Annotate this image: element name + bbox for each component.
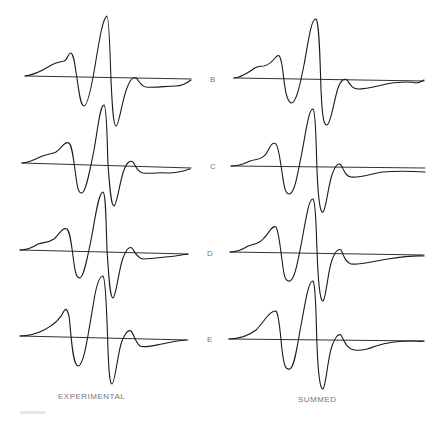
summed-trace-d (230, 199, 424, 301)
spectra-figure (0, 0, 442, 423)
experimental-trace-e (20, 276, 188, 384)
experimental-trace-b (25, 16, 191, 126)
row-label-c: C (210, 162, 216, 171)
experimental-trace-d (20, 192, 188, 298)
row-label-b: B (210, 75, 215, 84)
summed-trace-b (234, 19, 424, 125)
figure-caption-mark (20, 411, 46, 414)
summed-trace-e (229, 281, 424, 389)
row-label-d: D (207, 249, 213, 258)
column-label-experimental: EXPERIMENTAL (58, 392, 125, 401)
column-label-summed: SUMMED (298, 395, 337, 404)
experimental-trace-c (22, 105, 191, 206)
row-label-e: E (207, 335, 212, 344)
